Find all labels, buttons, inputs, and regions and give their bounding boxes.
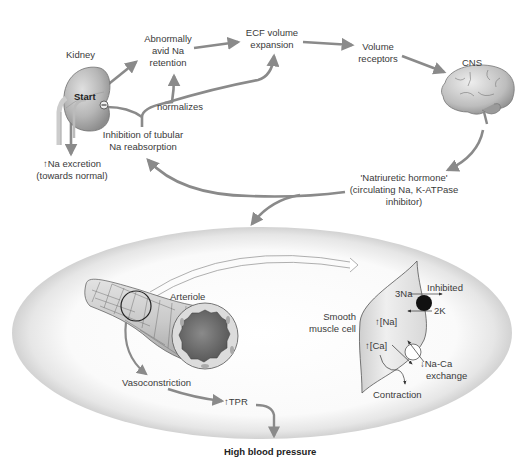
inhibition-tubular-label: Inhibition of tubular Na reabsorption	[95, 129, 191, 153]
avid-retention-line-1: Abnormally	[138, 33, 198, 45]
na-ca-exchange-label: ↓Na-Ca exchange	[420, 358, 467, 382]
exchange-line-1: ↓Na-Ca	[420, 358, 467, 370]
inhibition-link-to-kidney	[107, 107, 142, 117]
arrow-receptors-to-cns	[402, 56, 444, 72]
exchange-line-2: exchange	[420, 370, 467, 382]
avid-retention-label: Abnormally avid Na retention	[138, 33, 198, 69]
ecf-line-2: expansion	[240, 39, 304, 51]
inhibition-line-2: Na reabsorption	[95, 141, 191, 153]
smooth-muscle-label: Smooth muscle cell	[304, 311, 356, 335]
inhibition-line-1: Inhibition of tubular	[95, 129, 191, 141]
arrow-retention-to-ecf	[194, 42, 238, 48]
ecf-expansion-label: ECF volume expansion	[240, 27, 304, 51]
excretion-line-1: ↑Na excretion	[32, 158, 112, 170]
arrow-hormone-to-panel	[252, 195, 300, 224]
ca-concentration-label: ↑[Ca]	[365, 340, 387, 352]
na-k-pump-icon	[416, 295, 432, 311]
hormone-line-3: inhibitor)	[348, 196, 460, 208]
ecf-line-1: ECF volume	[240, 27, 304, 39]
cns-label: CNS	[462, 57, 482, 69]
na-ca-exchanger-icon	[405, 344, 421, 360]
arrow-cns-to-hormone	[448, 130, 483, 170]
pump-na-label: 3Na	[395, 288, 412, 300]
start-label: Start	[74, 91, 96, 103]
avid-retention-line-3: retention	[138, 57, 198, 69]
na-concentration-label: ↑[Na]	[375, 316, 397, 328]
arrow-hormone-to-inhibition	[148, 160, 345, 197]
smooth-muscle-line-1: Smooth	[304, 311, 356, 323]
avid-retention-line-2: avid Na	[138, 45, 198, 57]
vasoconstriction-label: Vasoconstriction	[122, 377, 191, 389]
natriuretic-hormone-label: 'Natriuretic hormone' (circulating Na, K…	[348, 172, 460, 208]
brain-icon	[442, 65, 515, 124]
excretion-line-2: (towards normal)	[32, 170, 112, 182]
diagram-canvas	[0, 0, 526, 466]
volume-receptors-label: Volume receptors	[352, 41, 404, 65]
tpr-label: ↑TPR	[224, 396, 248, 408]
receptors-line-2: receptors	[352, 53, 404, 65]
smooth-muscle-line-2: muscle cell	[304, 323, 356, 335]
kidney-label: Kidney	[66, 49, 95, 61]
arteriole-label: Arteriole	[170, 291, 205, 303]
inhibited-label: Inhibited	[427, 282, 463, 294]
pump-k-label: 2K	[434, 305, 446, 317]
arrow-ecf-to-receptors	[303, 42, 352, 45]
receptors-line-1: Volume	[352, 41, 404, 53]
na-excretion-label: ↑Na excretion (towards normal)	[32, 158, 112, 182]
contraction-label: Contraction	[373, 389, 422, 401]
normalizes-label: normalizes	[157, 101, 203, 113]
vascular-panel-ellipse	[12, 227, 512, 439]
high-blood-pressure-label: High blood pressure	[224, 446, 316, 458]
hormone-line-1: 'Natriuretic hormone'	[348, 172, 460, 184]
hormone-line-2: (circulating Na, K-ATPase	[348, 184, 460, 196]
